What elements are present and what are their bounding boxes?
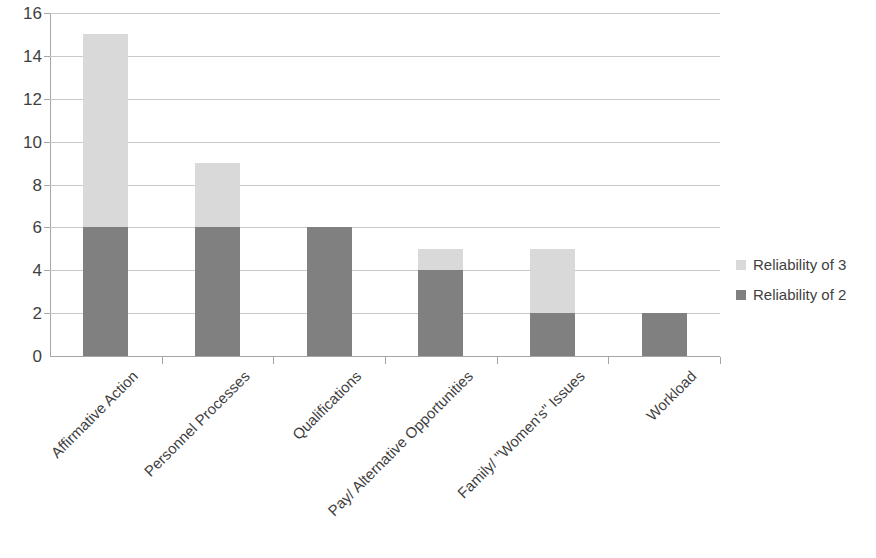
y-axis-tick xyxy=(44,142,50,143)
legend-swatch-icon xyxy=(736,290,746,300)
y-axis-tick xyxy=(44,13,50,14)
gridline xyxy=(50,142,720,143)
gridline xyxy=(50,270,720,271)
x-axis-tick xyxy=(385,357,386,364)
x-axis-tick xyxy=(720,357,721,364)
bar-segment-reliability-2[interactable] xyxy=(530,313,575,356)
bar-segment-reliability-2[interactable] xyxy=(83,227,128,356)
x-axis-tick xyxy=(608,357,609,364)
y-axis-tick xyxy=(44,313,50,314)
y-axis-tick xyxy=(44,99,50,100)
gridline xyxy=(50,99,720,100)
bar-segment-reliability-2[interactable] xyxy=(195,227,240,356)
bar-group[interactable] xyxy=(418,13,463,356)
bar-group[interactable] xyxy=(307,13,352,356)
y-axis-tick-label: 6 xyxy=(2,219,42,236)
gridline xyxy=(50,313,720,314)
x-axis-category-label: Workload xyxy=(476,368,699,558)
y-axis-tick-label: 14 xyxy=(2,48,42,65)
y-axis-tick-label: 2 xyxy=(2,305,42,322)
y-axis-tick-label: 8 xyxy=(2,177,42,194)
x-axis-category-label: Personnel Processes xyxy=(29,368,252,558)
x-axis-tick xyxy=(162,357,163,364)
bar-segment-reliability-3[interactable] xyxy=(418,249,463,270)
y-axis-tick xyxy=(44,185,50,186)
bar-chart: 1614121086420 Affirmative ActionPersonne… xyxy=(0,0,876,558)
x-axis-tick xyxy=(273,357,274,364)
bar-segment-reliability-3[interactable] xyxy=(83,34,128,227)
bar-segment-reliability-3[interactable] xyxy=(195,163,240,227)
x-axis-category-label: Pay/ Alternative Opportunities xyxy=(253,368,476,558)
bar-segment-reliability-2[interactable] xyxy=(307,227,352,356)
legend-label: Reliability of 2 xyxy=(753,287,846,303)
legend-label: Reliability of 3 xyxy=(753,257,846,273)
y-axis-tick xyxy=(44,270,50,271)
bar-group[interactable] xyxy=(195,13,240,356)
y-axis-tick xyxy=(44,56,50,57)
legend-item[interactable]: Reliability of 2 xyxy=(736,280,876,310)
y-axis-tick-label: 10 xyxy=(2,134,42,151)
x-axis-category-label: Family/ "Women's" Issues xyxy=(364,368,587,558)
x-axis-category-label: Qualifications xyxy=(141,368,364,558)
y-axis-tick-label: 16 xyxy=(2,5,42,22)
bar-group[interactable] xyxy=(642,13,687,356)
chart-legend: Reliability of 3Reliability of 2 xyxy=(736,250,876,310)
bar-group[interactable] xyxy=(83,13,128,356)
legend-swatch-icon xyxy=(736,260,746,270)
gridline xyxy=(50,13,720,14)
gridline xyxy=(50,185,720,186)
legend-item[interactable]: Reliability of 3 xyxy=(736,250,876,280)
gridline xyxy=(50,56,720,57)
bar-segment-reliability-2[interactable] xyxy=(642,313,687,356)
bar-segment-reliability-3[interactable] xyxy=(530,249,575,313)
gridline xyxy=(50,227,720,228)
y-axis-tick xyxy=(44,227,50,228)
x-axis-tick xyxy=(497,357,498,364)
y-axis-tick-label: 0 xyxy=(2,348,42,365)
bar-segment-reliability-2[interactable] xyxy=(418,270,463,356)
plot-area xyxy=(50,13,720,356)
y-axis-tick-label: 4 xyxy=(2,262,42,279)
y-axis-tick-label: 12 xyxy=(2,91,42,108)
bar-group[interactable] xyxy=(530,13,575,356)
